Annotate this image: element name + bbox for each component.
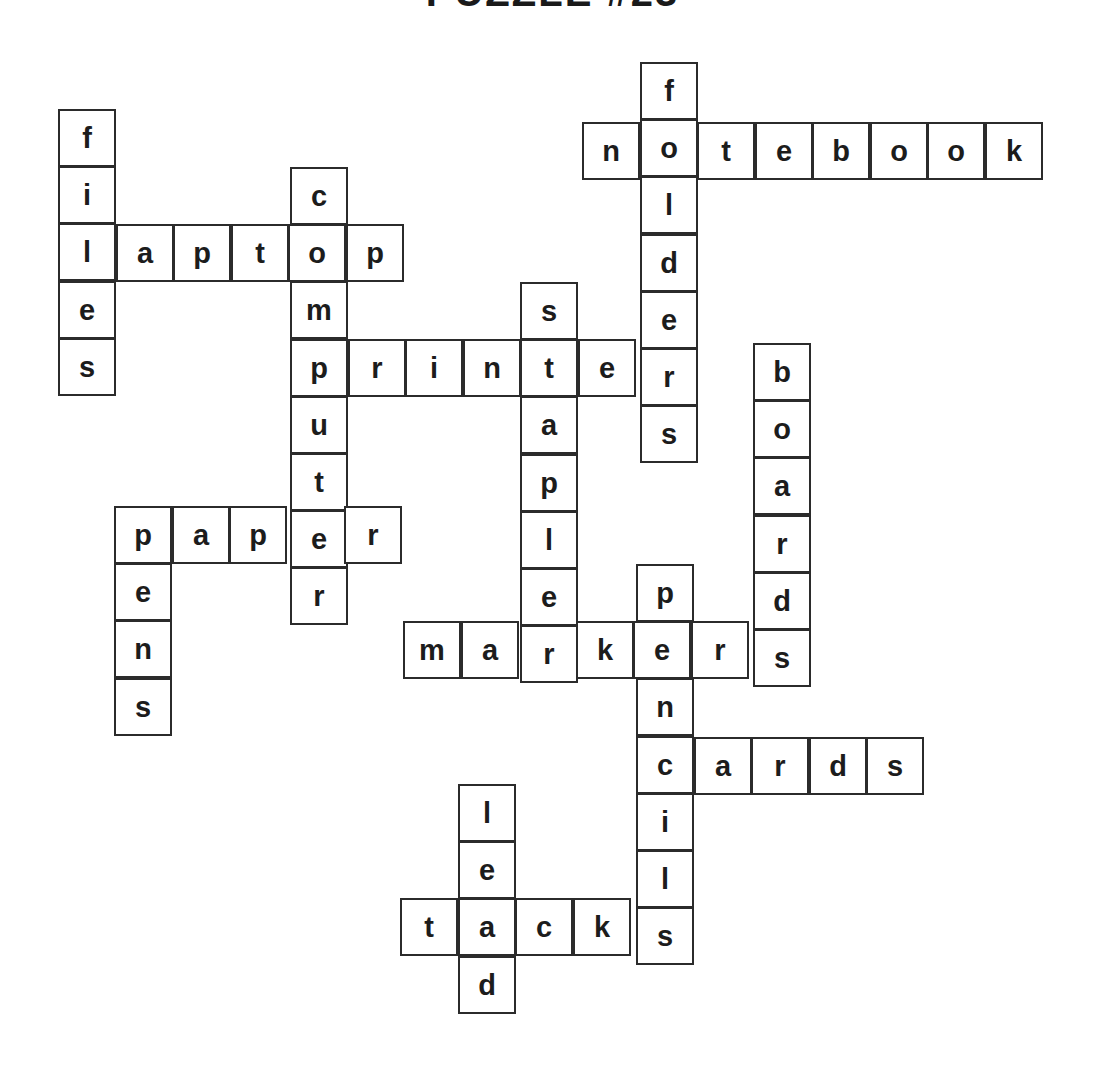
crossword-cell[interactable]: p: [229, 506, 287, 564]
crossword-cell[interactable]: i: [58, 166, 116, 224]
crossword-cell[interactable]: n: [582, 122, 640, 180]
crossword-cell[interactable]: n: [463, 339, 521, 397]
crossword-cell[interactable]: b: [753, 343, 811, 401]
crossword-cell[interactable]: n: [114, 620, 172, 678]
crossword-cell[interactable]: e: [578, 339, 636, 397]
crossword-cell[interactable]: k: [573, 898, 631, 956]
crossword-cell[interactable]: d: [753, 572, 811, 630]
crossword-cell[interactable]: s: [636, 907, 694, 965]
crossword-cell[interactable]: o: [753, 400, 811, 458]
crossword-grid: foldersntebookfilesaptopcmputerrintesapl…: [0, 0, 1105, 1077]
crossword-cell[interactable]: s: [866, 737, 924, 795]
crossword-cell[interactable]: f: [640, 62, 698, 120]
crossword-cell[interactable]: o: [288, 224, 346, 282]
crossword-cell[interactable]: r: [691, 621, 749, 679]
crossword-cell[interactable]: m: [290, 281, 348, 339]
crossword-cell[interactable]: o: [870, 122, 928, 180]
crossword-cell[interactable]: i: [405, 339, 463, 397]
crossword-cell[interactable]: t: [231, 224, 289, 282]
crossword-cell[interactable]: o: [640, 119, 698, 177]
crossword-cell[interactable]: c: [290, 167, 348, 225]
crossword-cell[interactable]: l: [58, 223, 116, 281]
crossword-cell[interactable]: l: [640, 176, 698, 234]
crossword-cell[interactable]: e: [755, 122, 813, 180]
crossword-cell[interactable]: e: [290, 510, 348, 568]
crossword-cell[interactable]: e: [458, 841, 516, 899]
crossword-cell[interactable]: l: [636, 850, 694, 908]
crossword-cell[interactable]: i: [636, 793, 694, 851]
crossword-cell[interactable]: p: [636, 564, 694, 622]
crossword-cell[interactable]: s: [520, 282, 578, 340]
crossword-cell[interactable]: a: [458, 898, 516, 956]
crossword-cell[interactable]: e: [114, 563, 172, 621]
crossword-cell[interactable]: b: [812, 122, 870, 180]
crossword-cell[interactable]: d: [809, 737, 867, 795]
crossword-cell[interactable]: n: [636, 678, 694, 736]
crossword-cell[interactable]: p: [173, 224, 231, 282]
crossword-cell[interactable]: r: [753, 515, 811, 573]
crossword-cell[interactable]: r: [751, 737, 809, 795]
crossword-cell[interactable]: s: [114, 678, 172, 736]
crossword-cell[interactable]: e: [520, 568, 578, 626]
crossword-cell[interactable]: o: [927, 122, 985, 180]
crossword-cell[interactable]: l: [520, 511, 578, 569]
crossword-cell[interactable]: f: [58, 109, 116, 167]
crossword-cell[interactable]: t: [290, 453, 348, 511]
crossword-cell[interactable]: a: [694, 737, 752, 795]
crossword-cell[interactable]: t: [520, 339, 578, 397]
crossword-cell[interactable]: k: [576, 621, 634, 679]
crossword-cell[interactable]: p: [114, 506, 172, 564]
crossword-cell[interactable]: c: [515, 898, 573, 956]
crossword-cell[interactable]: e: [633, 621, 691, 679]
crossword-cell[interactable]: e: [640, 291, 698, 349]
crossword-cell[interactable]: c: [636, 736, 694, 794]
crossword-cell[interactable]: e: [58, 281, 116, 339]
crossword-cell[interactable]: a: [520, 396, 578, 454]
crossword-cell[interactable]: s: [640, 405, 698, 463]
crossword-cell[interactable]: k: [985, 122, 1043, 180]
crossword-cell[interactable]: a: [172, 506, 230, 564]
crossword-cell[interactable]: r: [348, 339, 406, 397]
crossword-cell[interactable]: s: [58, 338, 116, 396]
crossword-cell[interactable]: r: [640, 348, 698, 406]
crossword-cell[interactable]: p: [290, 339, 348, 397]
crossword-cell[interactable]: a: [461, 621, 519, 679]
crossword-cell[interactable]: s: [753, 629, 811, 687]
crossword-cell[interactable]: r: [290, 567, 348, 625]
crossword-cell[interactable]: t: [400, 898, 458, 956]
crossword-cell[interactable]: l: [458, 784, 516, 842]
crossword-cell[interactable]: r: [520, 625, 578, 683]
crossword-cell[interactable]: u: [290, 396, 348, 454]
crossword-cell[interactable]: m: [403, 621, 461, 679]
crossword-cell[interactable]: p: [346, 224, 404, 282]
crossword-cell[interactable]: d: [640, 234, 698, 292]
crossword-cell[interactable]: d: [458, 956, 516, 1014]
crossword-cell[interactable]: r: [344, 506, 402, 564]
crossword-cell[interactable]: a: [116, 224, 174, 282]
crossword-cell[interactable]: t: [697, 122, 755, 180]
crossword-cell[interactable]: a: [753, 457, 811, 515]
crossword-cell[interactable]: p: [520, 454, 578, 512]
